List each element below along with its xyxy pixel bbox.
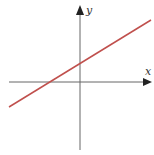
- x-axis-arrow-icon: [143, 78, 152, 86]
- coordinate-plane: x y: [0, 0, 154, 155]
- x-axis-label: x: [145, 65, 152, 78]
- y-axis-label: y: [85, 4, 93, 17]
- y-axis-arrow-icon: [76, 5, 84, 15]
